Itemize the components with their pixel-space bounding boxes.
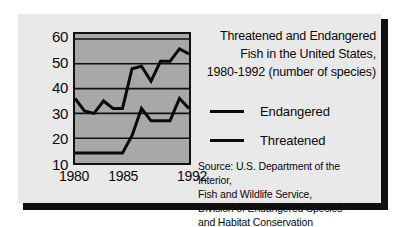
x-axis-tick-label: 1980 <box>59 169 89 183</box>
plot-area <box>73 32 191 165</box>
plot-svg <box>75 34 189 163</box>
x-axis: 198019851992 <box>58 169 218 191</box>
chart-legend: Endangered Threatened <box>198 101 376 150</box>
legend-label-endangered: Endangered <box>260 104 330 119</box>
legend-item-endangered: Endangered <box>210 101 376 121</box>
legend-line-swatch-endangered <box>210 110 244 113</box>
source-note: Source: U.S. Department of the Interior,… <box>198 160 376 227</box>
series-line-threatened <box>75 99 189 154</box>
chart-info-column: Threatened and Endangered Fish in the Un… <box>198 28 376 198</box>
y-axis-tick-label: 20 <box>38 131 68 146</box>
chart-figure: 102030405060 198019851992 Threatened and… <box>18 14 388 210</box>
y-axis-tick-label: 50 <box>38 55 68 70</box>
y-axis-tick-label: 60 <box>38 29 68 44</box>
chart-title: Threatened and Endangered Fish in the Un… <box>198 28 376 81</box>
legend-label-threatened: Threatened <box>260 133 326 148</box>
legend-item-threatened: Threatened <box>210 130 376 150</box>
legend-line-swatch-threatened <box>210 139 244 142</box>
x-axis-tick-label: 1985 <box>108 169 138 183</box>
series-line-endangered <box>75 49 189 114</box>
figure-shadow-right <box>381 19 388 210</box>
y-axis-tick-label: 30 <box>38 106 68 121</box>
chart-panel: 102030405060 198019851992 Threatened and… <box>18 14 381 203</box>
gridlines <box>75 39 189 138</box>
y-axis-tick-label: 40 <box>38 80 68 95</box>
